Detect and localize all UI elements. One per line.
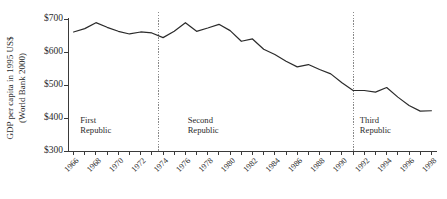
gdp-line-chart: GDP per capita in 1995 US$ (World Bank 2… (0, 0, 447, 199)
x-tick-label: 1980 (219, 156, 237, 174)
y-tick-label: $400 (44, 112, 63, 122)
x-tick-label: 1998 (420, 156, 438, 174)
x-tick-label: 1982 (241, 156, 259, 174)
x-tick-label: 1974 (152, 156, 170, 174)
gdp-series-line (74, 23, 432, 111)
x-tick-label: 1994 (376, 156, 394, 174)
x-tick-label: 1978 (197, 156, 215, 174)
x-tick-label: 1992 (353, 156, 371, 174)
x-tick-label: 1972 (130, 156, 148, 174)
era-label-line1: Second (188, 115, 214, 125)
era-label-line1: Third (360, 115, 380, 125)
x-tick-label: 1968 (85, 156, 103, 174)
y-axis-title-line2: (World Bank 2000) (17, 53, 27, 123)
era-label-line2: Republic (188, 125, 219, 135)
x-tick-labels: 1966196819701972197419761978198019821984… (63, 156, 439, 174)
y-tick-label: $500 (44, 79, 63, 89)
x-tick-label: 1996 (398, 156, 416, 174)
y-axis-title-line1: GDP per capita in 1995 US$ (5, 36, 15, 139)
y-axis-title: GDP per capita in 1995 US$ (World Bank 2… (5, 36, 27, 139)
era-annotations: FirstRepublicSecondRepublicThirdRepublic (80, 115, 391, 135)
era-label-line2: Republic (80, 125, 111, 135)
y-axis-ticks (64, 19, 68, 151)
x-tick-label: 1990 (331, 156, 349, 174)
x-tick-label: 1966 (63, 156, 81, 174)
y-tick-label: $300 (44, 145, 63, 155)
x-tick-label: 1984 (264, 156, 282, 174)
x-axis-ticks (74, 151, 432, 155)
x-tick-label: 1988 (309, 156, 327, 174)
era-label-line2: Republic (360, 125, 391, 135)
x-tick-label: 1976 (174, 156, 192, 174)
era-label-line1: First (80, 115, 96, 125)
y-tick-label: $600 (44, 46, 63, 56)
y-tick-labels: $700 $600 $500 $400 $300 (44, 13, 63, 155)
chart-figure: GDP per capita in 1995 US$ (World Bank 2… (0, 0, 447, 199)
x-tick-label: 1970 (107, 156, 125, 174)
x-tick-label: 1986 (286, 156, 304, 174)
y-tick-label: $700 (44, 13, 63, 23)
